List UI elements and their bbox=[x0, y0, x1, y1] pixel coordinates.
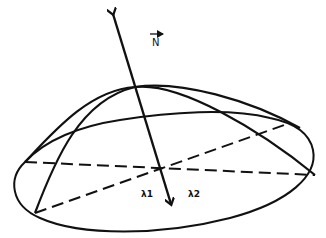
dashed-axis-1 bbox=[25, 162, 315, 175]
surface-diagram: N λ1 λ2 bbox=[0, 0, 326, 238]
normal-label: N bbox=[152, 37, 159, 48]
lambda1-label: λ1 bbox=[141, 189, 153, 199]
dome-arc-principal bbox=[35, 87, 315, 213]
dome-arc-outer bbox=[25, 86, 300, 162]
base-ellipse bbox=[14, 112, 313, 231]
dashed-axis-2 bbox=[35, 123, 290, 213]
lambda2-label: λ2 bbox=[188, 189, 200, 199]
